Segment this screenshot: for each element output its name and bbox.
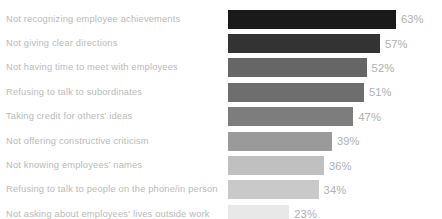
bar bbox=[228, 107, 353, 126]
bar-track: 63% bbox=[228, 7, 442, 31]
bar-track: 52% bbox=[228, 56, 442, 80]
bar-value-label: 63% bbox=[401, 13, 424, 25]
bar-value-label: 36% bbox=[329, 160, 352, 172]
bar-chart: Not recognizing employee achievements63%… bbox=[0, 0, 442, 219]
bar-row: Not knowing employees' names36% bbox=[0, 153, 442, 177]
bar-category-label: Not giving clear directions bbox=[0, 38, 228, 49]
bar-value-label: 51% bbox=[369, 86, 392, 98]
bar-row: Refusing to talk to subordinates51% bbox=[0, 80, 442, 104]
bar-value-label: 23% bbox=[294, 208, 317, 219]
bar-row: Refusing to talk to people on the phone/… bbox=[0, 178, 442, 202]
bar-track: 51% bbox=[228, 80, 442, 104]
bar bbox=[228, 10, 396, 29]
bar bbox=[228, 156, 324, 175]
bar-category-label: Not offering constructive criticism bbox=[0, 136, 228, 147]
bar bbox=[228, 205, 289, 219]
bar-track: 47% bbox=[228, 105, 442, 129]
bar-value-label: 34% bbox=[324, 184, 347, 196]
bar-category-label: Not asking about employees' lives outsid… bbox=[0, 209, 228, 219]
bar-row: Taking credit for others' ideas47% bbox=[0, 105, 442, 129]
bar-value-label: 47% bbox=[358, 111, 381, 123]
bar-row: Not asking about employees' lives outsid… bbox=[0, 202, 442, 219]
bar-category-label: Refusing to talk to subordinates bbox=[0, 87, 228, 98]
bar-category-label: Not knowing employees' names bbox=[0, 160, 228, 171]
bar-track: 23% bbox=[228, 202, 442, 219]
bar-track: 39% bbox=[228, 129, 442, 153]
bar bbox=[228, 180, 319, 199]
bar-track: 34% bbox=[228, 178, 442, 202]
bar-track: 36% bbox=[228, 153, 442, 177]
bar-row: Not recognizing employee achievements63% bbox=[0, 7, 442, 31]
bar-category-label: Not having time to meet with employees bbox=[0, 62, 228, 73]
bar bbox=[228, 132, 332, 151]
bar-value-label: 57% bbox=[385, 38, 408, 50]
bar-value-label: 52% bbox=[372, 62, 395, 74]
bar-value-label: 39% bbox=[337, 135, 360, 147]
bar bbox=[228, 58, 367, 77]
bar-category-label: Not recognizing employee achievements bbox=[0, 14, 228, 25]
bar-row: Not giving clear directions57% bbox=[0, 31, 442, 55]
bar-row: Not having time to meet with employees52… bbox=[0, 56, 442, 80]
bar-track: 57% bbox=[228, 31, 442, 55]
bar-category-label: Taking credit for others' ideas bbox=[0, 111, 228, 122]
bar-category-label: Refusing to talk to people on the phone/… bbox=[0, 184, 228, 195]
bar-row: Not offering constructive criticism39% bbox=[0, 129, 442, 153]
bar bbox=[228, 34, 380, 53]
bar bbox=[228, 83, 364, 102]
bar-row-list: Not recognizing employee achievements63%… bbox=[0, 7, 442, 219]
